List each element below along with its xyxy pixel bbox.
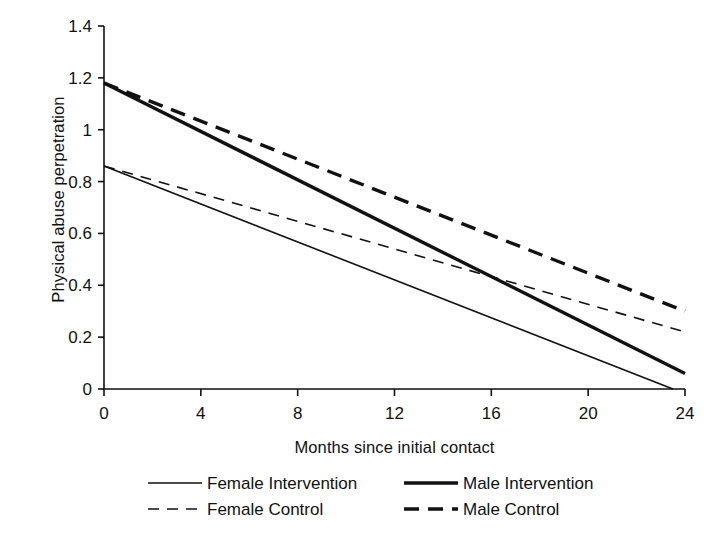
- legend-swatch-solid-thin: [146, 476, 204, 490]
- legend-item-female-control: Female Control: [146, 496, 323, 522]
- legend-row: Female InterventionMale Intervention: [146, 470, 616, 496]
- series-line-female-control: [104, 166, 685, 332]
- chart-legend: Female InterventionMale InterventionFema…: [146, 470, 616, 528]
- legend-label: Female Intervention: [207, 475, 357, 492]
- x-axis-tick-label: 8: [278, 405, 318, 422]
- series-line-female-intervention: [104, 166, 673, 389]
- legend-item-male-control: Male Control: [402, 496, 559, 522]
- x-axis-tick-label: 24: [665, 405, 705, 422]
- y-axis-tick-label: 0.8: [46, 174, 92, 191]
- y-axis-tick-label: 1.4: [46, 18, 92, 35]
- y-axis-tick-label: 1: [46, 122, 92, 139]
- legend-swatch-solid-thick: [402, 476, 460, 490]
- legend-row: Female ControlMale Control: [146, 496, 616, 522]
- x-axis-tick-label: 0: [84, 405, 124, 422]
- y-axis-tick-label: 0.2: [46, 329, 92, 346]
- axis-spines: [104, 26, 685, 389]
- y-axis-tick-label: 0: [46, 381, 92, 398]
- legend-swatch-dashed-thick: [402, 502, 460, 516]
- x-axis-tick-label: 20: [568, 405, 608, 422]
- legend-label: Female Control: [207, 501, 323, 518]
- x-axis-tick-label: 12: [375, 405, 415, 422]
- x-axis-tick-labels: 04812162024: [0, 405, 713, 429]
- legend-item-female-intervention: Female Intervention: [146, 470, 357, 496]
- y-axis-tick-label: 0.4: [46, 277, 92, 294]
- series-line-male-control: [104, 83, 685, 311]
- y-axis-tick-label: 0.6: [46, 225, 92, 242]
- legend-item-male-intervention: Male Intervention: [402, 470, 593, 496]
- legend-label: Male Control: [463, 501, 559, 518]
- x-axis-title: Months since initial contact: [104, 438, 685, 457]
- chart-figure: Physical abuse perpetration 00.20.40.60.…: [0, 0, 713, 541]
- legend-swatch-dashed-thin: [146, 502, 204, 516]
- plot-area: [0, 0, 713, 541]
- legend-label: Male Intervention: [463, 475, 593, 492]
- y-axis-tick-label: 1.2: [46, 70, 92, 87]
- x-axis-tick-label: 16: [471, 405, 511, 422]
- series-line-male-intervention: [104, 83, 685, 373]
- x-axis-tick-label: 4: [181, 405, 221, 422]
- y-axis-tick-labels: 00.20.40.60.811.21.4: [42, 0, 92, 541]
